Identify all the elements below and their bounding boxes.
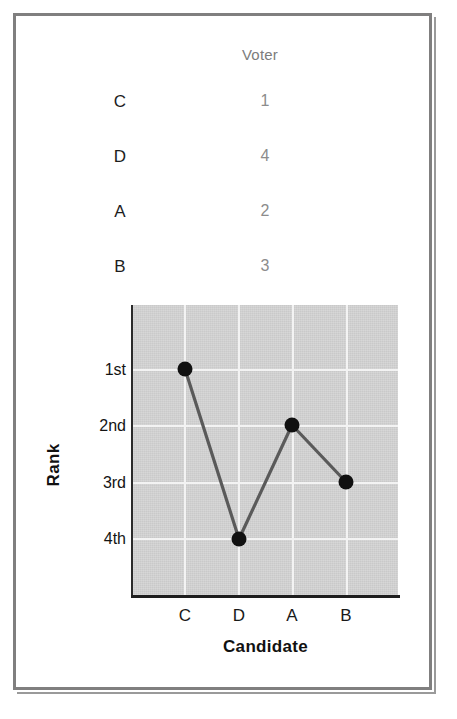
x-tick-label: A xyxy=(275,606,309,626)
x-axis-line xyxy=(131,595,400,598)
x-tick-label: C xyxy=(168,606,202,626)
rank-chart: 1st 2nd 3rd 4th C D A B Rank Candidate xyxy=(0,0,457,719)
gridline-vertical xyxy=(238,305,240,595)
y-axis-line xyxy=(131,305,133,597)
gridline-horizontal xyxy=(133,425,398,427)
y-axis-title: Rank xyxy=(44,410,64,520)
y-tick-label: 2nd xyxy=(62,417,126,435)
plot-area xyxy=(133,305,398,595)
x-tick-label: D xyxy=(222,606,256,626)
gridline-vertical xyxy=(346,305,348,595)
x-tick-label: B xyxy=(329,606,363,626)
gridline-horizontal xyxy=(133,482,398,484)
x-axis-title: Candidate xyxy=(133,637,398,657)
page-canvas: Voter C 1 D 4 A 2 B 3 xyxy=(0,0,457,719)
gridline-horizontal xyxy=(133,369,398,371)
y-tick-label: 1st xyxy=(62,361,126,379)
gridline-horizontal xyxy=(133,538,398,540)
plot-grain-texture xyxy=(133,305,398,595)
y-tick-label: 3rd xyxy=(62,474,126,492)
y-tick-label: 4th xyxy=(62,530,126,548)
gridline-vertical xyxy=(184,305,186,595)
gridline-vertical xyxy=(292,305,294,595)
y-tick-label-group: 1st 2nd 3rd 4th xyxy=(60,0,126,719)
